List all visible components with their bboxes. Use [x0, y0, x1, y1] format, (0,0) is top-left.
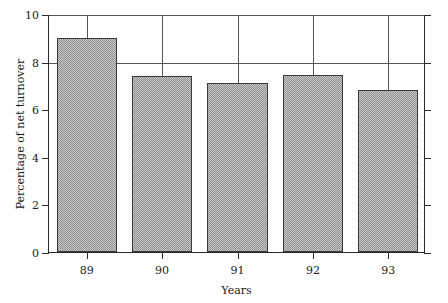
x-tick-label: 90	[155, 265, 169, 276]
bar-chart-figure: Percentage of net turnover 0246810 89909…	[0, 0, 448, 303]
y-tick-mark-right	[424, 205, 431, 206]
bar	[358, 90, 418, 252]
y-tick-mark-right	[424, 15, 431, 16]
y-tick-mark	[42, 205, 49, 206]
x-axis-title: Years	[48, 285, 425, 297]
x-tick-mark	[238, 252, 239, 259]
x-tick-mark	[87, 252, 88, 259]
y-tick-mark	[42, 110, 49, 111]
y-tick-mark	[42, 63, 49, 64]
y-tick-mark	[42, 15, 49, 16]
y-tick-label: 8	[32, 57, 39, 68]
y-tick-label: 4	[32, 152, 39, 163]
y-tick-mark	[42, 253, 49, 254]
x-tick-label: 89	[80, 265, 94, 276]
x-tick-mark	[313, 252, 314, 259]
y-tick-mark-right	[424, 63, 431, 64]
y-tick-mark-right	[424, 253, 431, 254]
x-tick-label: 92	[306, 265, 320, 276]
y-axis-title: Percentage of net turnover	[14, 15, 28, 253]
horizontal-gridline	[49, 15, 424, 16]
bar	[283, 75, 343, 252]
y-tick-label: 6	[32, 105, 39, 116]
x-tick-label: 93	[381, 265, 395, 276]
plot-area: 0246810 8990919293	[48, 15, 425, 253]
bar	[132, 76, 192, 252]
x-tick-label: 91	[231, 265, 245, 276]
y-tick-mark	[42, 158, 49, 159]
y-tick-label: 10	[25, 10, 39, 21]
bar	[207, 83, 267, 252]
y-tick-mark-right	[424, 110, 431, 111]
x-tick-mark	[388, 252, 389, 259]
y-tick-mark-right	[424, 158, 431, 159]
y-tick-label: 0	[32, 248, 39, 259]
bar	[57, 38, 117, 252]
x-tick-mark	[162, 252, 163, 259]
y-tick-label: 2	[32, 200, 39, 211]
